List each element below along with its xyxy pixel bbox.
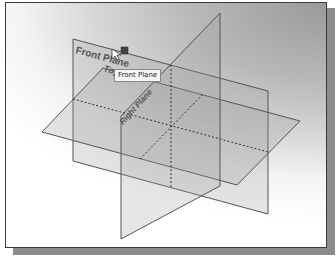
- tooltip: Front Plane: [114, 69, 161, 82]
- planes-diagram: Front Plane Top Plane Right Plane: [5, 2, 327, 248]
- graphics-viewport[interactable]: Front Plane Top Plane Right Plane Front …: [5, 2, 327, 248]
- plane-handle-icon[interactable]: [121, 47, 128, 54]
